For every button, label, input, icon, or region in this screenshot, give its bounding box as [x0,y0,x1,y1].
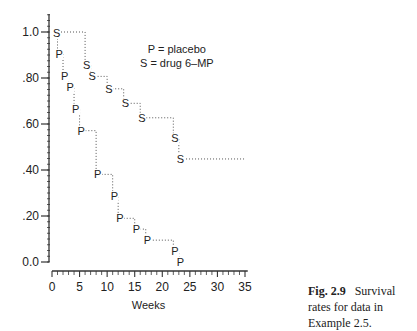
x-tick-label: 20 [156,280,170,294]
marker-drug: S [83,59,90,71]
marker-placebo: P [111,190,118,202]
y-tick-label: .80 [22,71,39,85]
chart-legend: P = placebo S = drug 6–MP [140,42,214,70]
marker-placebo: P [56,48,63,60]
marker-placebo: P [67,81,74,93]
marker-placebo: P [116,212,123,224]
x-tick-label: 30 [211,280,225,294]
marker-drug: S [105,83,112,95]
y-tick-label: 0.0 [22,255,39,269]
x-tick-label: 10 [100,280,114,294]
y-tick-label: .40 [22,163,39,177]
x-tick-label: 5 [76,280,83,294]
y-tick-label: 1.0 [22,25,39,39]
x-tick-label: 15 [128,280,142,294]
marker-drug: S [53,27,60,39]
marker-placebo: P [144,234,151,246]
figure-caption: Fig. 2.9 Survival rates for data in Exam… [308,283,417,331]
marker-placebo: P [72,103,79,115]
y-tick-label: .20 [22,209,39,223]
y-tick-label: .60 [22,117,39,131]
figure-label: Fig. 2.9 [308,284,346,298]
marker-placebo: P [78,125,85,137]
x-axis-label: Weeks [132,299,166,311]
marker-drug: S [122,97,129,109]
marker-placebo: P [177,256,184,268]
x-tick-label: 25 [183,280,197,294]
marker-drug: S [171,132,178,144]
marker-placebo: P [94,168,101,180]
legend-placebo: P = placebo [140,42,214,56]
x-tick-label: 35 [238,280,252,294]
marker-placebo: P [133,223,140,235]
marker-drug: S [138,112,145,124]
x-tick-label: 0 [49,280,56,294]
marker-drug: S [89,70,96,82]
marker-drug: S [177,153,184,165]
legend-drug: S = drug 6–MP [140,56,214,70]
